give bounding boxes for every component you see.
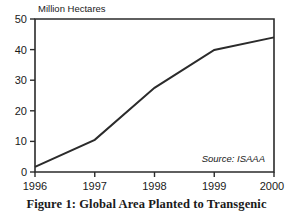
- plot-background: [35, 19, 274, 172]
- y-tick-label-40: 40: [15, 44, 27, 56]
- y-axis-tick-labels: 50 40 30 20 10 0: [15, 13, 27, 178]
- y-axis-title: Million Hectares: [38, 3, 106, 14]
- figure-caption: Figure 1: Global Area Planted to Transge…: [0, 197, 293, 212]
- x-tick-label-1998: 1998: [142, 180, 166, 192]
- x-tick-label-1999: 1999: [202, 180, 226, 192]
- x-tick-label-1997: 1997: [83, 180, 107, 192]
- y-tick-label-0: 0: [21, 166, 27, 178]
- x-tick-label-2000: 2000: [260, 180, 284, 192]
- y-tick-label-50: 50: [15, 13, 27, 25]
- figure-container: Million Hectares 50 40 30 20 10 0: [0, 0, 293, 222]
- y-tick-label-10: 10: [15, 135, 27, 147]
- source-annotation: Source: ISAAA: [202, 153, 265, 164]
- x-tick-label-1996: 1996: [23, 180, 47, 192]
- y-tick-label-30: 30: [15, 74, 27, 86]
- x-axis-tick-labels: 1996 1997 1998 1999 2000: [23, 180, 284, 192]
- y-tick-label-20: 20: [15, 105, 27, 117]
- line-chart: Million Hectares 50 40 30 20 10 0: [0, 0, 293, 222]
